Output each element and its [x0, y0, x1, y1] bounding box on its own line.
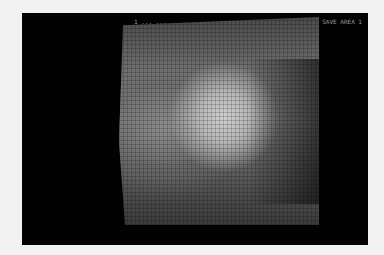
header-right-text: SAVE AREA 1: [322, 17, 362, 26]
dark-shade-region: [249, 59, 319, 205]
pixelated-image: [119, 17, 319, 225]
monitor-screen: 1 ... ... ... SAVE AREA 1: [22, 13, 368, 245]
